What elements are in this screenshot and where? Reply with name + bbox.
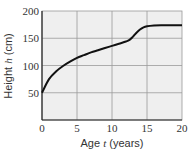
x-tick-label: 0: [39, 122, 45, 134]
x-tick-labels: 05101520: [39, 122, 188, 134]
x-tick-label: 15: [142, 122, 154, 134]
x-tick-label: 20: [177, 122, 189, 134]
x-axis-label: Age t (years): [81, 137, 144, 149]
y-tick-label: 100: [23, 60, 40, 72]
height-vs-age-chart: 05101520 50100150200 Age t (years) Heigh…: [0, 0, 195, 152]
y-tick-label: 200: [23, 5, 40, 17]
y-tick-labels: 50100150200: [23, 5, 40, 99]
y-axis-label: Height h (cm): [2, 33, 14, 98]
y-tick-label: 150: [23, 32, 40, 44]
y-tick-label: 50: [28, 87, 40, 99]
x-tick-label: 10: [107, 122, 119, 134]
x-tick-label: 5: [74, 122, 80, 134]
